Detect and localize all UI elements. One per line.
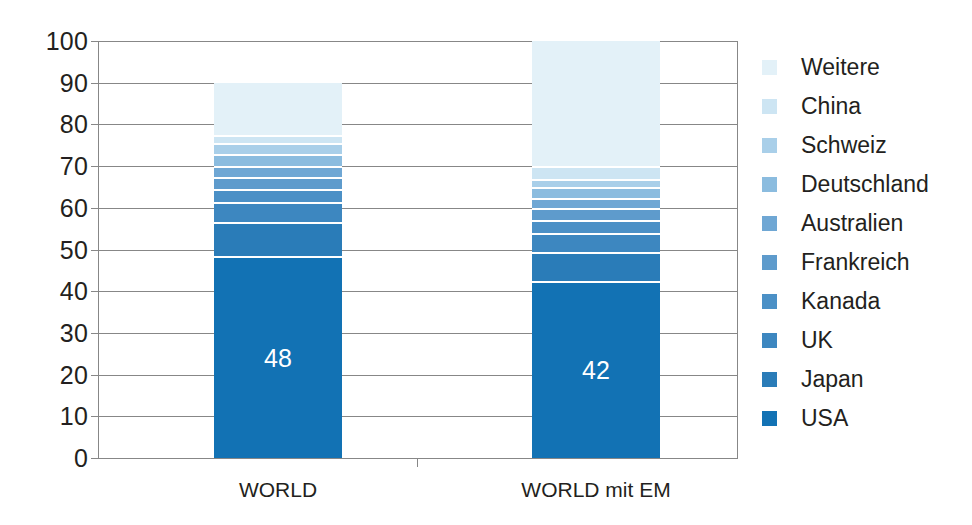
legend-item-label: Schweiz: [801, 134, 887, 157]
legend-swatch-icon: [762, 255, 777, 270]
y-axis-tick-mark: [91, 124, 98, 125]
y-axis-tick-label: 40: [60, 279, 88, 304]
y-axis-tick-label: 0: [74, 446, 88, 471]
legend-swatch-icon: [762, 99, 777, 114]
legend-swatch-icon: [762, 60, 777, 75]
legend-item-schweiz[interactable]: Schweiz: [762, 126, 972, 165]
x-axis-tick-mark: [417, 458, 418, 467]
legend-item-weitere[interactable]: Weitere: [762, 48, 972, 87]
y-axis-tick-label: 60: [60, 195, 88, 220]
legend-swatch-icon: [762, 177, 777, 192]
bar-segment-weitere[interactable]: [214, 83, 342, 137]
bar-segment-china[interactable]: [214, 137, 342, 145]
y-axis-tick-label: 80: [60, 112, 88, 137]
legend-item-label: Kanada: [801, 290, 880, 313]
y-axis-tick-label: 20: [60, 362, 88, 387]
legend-item-uk[interactable]: UK: [762, 321, 972, 360]
chart-legend: WeitereChinaSchweizDeutschlandAustralien…: [762, 48, 972, 438]
legend-item-japan[interactable]: Japan: [762, 360, 972, 399]
stacked-bar-chart: 0102030405060708090100 4842 WeitereChina…: [0, 0, 972, 525]
y-axis-tick-label: 50: [60, 237, 88, 262]
bar-segment-uk[interactable]: [532, 235, 660, 254]
bar-segment-value-label: 42: [532, 358, 660, 383]
y-axis-tick-label: 10: [60, 404, 88, 429]
legend-swatch-icon: [762, 294, 777, 309]
y-axis-tick-label: 90: [60, 70, 88, 95]
legend-item-frankreich[interactable]: Frankreich: [762, 243, 972, 282]
bar-segment-frankreich[interactable]: [532, 210, 660, 223]
bar-segment-kanada[interactable]: [214, 191, 342, 204]
legend-swatch-icon: [762, 216, 777, 231]
bar-segment-value-label: 48: [214, 346, 342, 371]
y-axis-tick-mark: [91, 166, 98, 167]
legend-item-kanada[interactable]: Kanada: [762, 282, 972, 321]
bar-segment-deutschland[interactable]: [532, 189, 660, 199]
bar-segment-china[interactable]: [532, 168, 660, 181]
legend-item-label: Deutschland: [801, 173, 929, 196]
legend-item-label: Frankreich: [801, 251, 910, 274]
legend-swatch-icon: [762, 372, 777, 387]
legend-item-label: UK: [801, 329, 833, 352]
bar-segment-japan[interactable]: [532, 254, 660, 283]
bar-segment-frankreich[interactable]: [214, 179, 342, 192]
y-axis-tick-mark: [91, 41, 98, 42]
legend-item-usa[interactable]: USA: [762, 399, 972, 438]
legend-swatch-icon: [762, 138, 777, 153]
x-axis-label-world-mit-em: WORLD mit EM: [456, 478, 736, 502]
x-axis-label-world: WORLD: [138, 478, 418, 502]
y-axis-tick-label: 100: [46, 29, 88, 54]
bar-segment-australien[interactable]: [214, 168, 342, 178]
bar-segment-deutschland[interactable]: [214, 156, 342, 169]
legend-item-label: USA: [801, 407, 848, 430]
bar-segment-uk[interactable]: [214, 204, 342, 225]
legend-item-label: Weitere: [801, 56, 880, 79]
y-axis-tick-mark: [91, 375, 98, 376]
bar-segment-schweiz[interactable]: [532, 181, 660, 189]
bar-segment-schweiz[interactable]: [214, 145, 342, 155]
bar-segment-kanada[interactable]: [532, 222, 660, 235]
legend-item-label: China: [801, 95, 861, 118]
legend-item-label: Japan: [801, 368, 864, 391]
legend-item-china[interactable]: China: [762, 87, 972, 126]
bar-segment-japan[interactable]: [214, 224, 342, 257]
y-axis-tick-label: 70: [60, 154, 88, 179]
bar-segment-australien[interactable]: [532, 200, 660, 210]
y-axis-tick-mark: [91, 250, 98, 251]
bar-segment-usa[interactable]: 48: [214, 258, 342, 458]
bar-world-mit-em[interactable]: 42: [532, 41, 660, 458]
y-axis-tick-mark: [91, 291, 98, 292]
y-axis-tick-mark: [91, 458, 98, 459]
y-axis-tick-mark: [91, 416, 98, 417]
plot-area: 4842: [98, 41, 738, 458]
y-axis-tick-mark: [91, 333, 98, 334]
legend-item-label: Australien: [801, 212, 903, 235]
bar-segment-usa[interactable]: 42: [532, 283, 660, 458]
y-axis-tick-mark: [91, 208, 98, 209]
legend-swatch-icon: [762, 411, 777, 426]
y-axis: 0102030405060708090100: [0, 0, 96, 525]
legend-swatch-icon: [762, 333, 777, 348]
gridline: [98, 458, 738, 459]
legend-item-deutschland[interactable]: Deutschland: [762, 165, 972, 204]
y-axis-tick-label: 30: [60, 320, 88, 345]
bar-world[interactable]: 48: [214, 83, 342, 458]
y-axis-tick-mark: [91, 83, 98, 84]
legend-item-australien[interactable]: Australien: [762, 204, 972, 243]
bar-segment-weitere[interactable]: [532, 41, 660, 168]
